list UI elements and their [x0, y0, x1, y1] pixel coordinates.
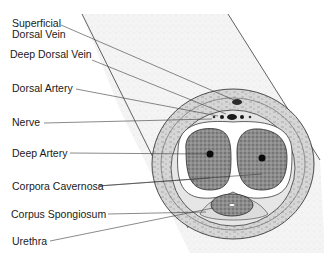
deep-artery-left [207, 151, 214, 158]
corpus-cavernosum-left [186, 129, 231, 190]
label-urethra: Urethra [12, 236, 47, 247]
label-deep-dorsal-vein: Deep Dorsal Vein [10, 49, 92, 60]
label-corpora-cavernosa: Corpora Cavernosa [12, 181, 104, 192]
deep-artery-right [259, 155, 266, 162]
label-nerve: Nerve [12, 117, 40, 128]
label-superficial-dorsal-vein: Superficial Dorsal Vein [12, 18, 66, 40]
label-deep-artery: Deep Artery [12, 148, 67, 159]
label-dorsal-artery: Dorsal Artery [12, 83, 73, 94]
urethra [229, 203, 235, 206]
label-corpus-spongiosum: Corpus Spongiosum [11, 209, 106, 220]
